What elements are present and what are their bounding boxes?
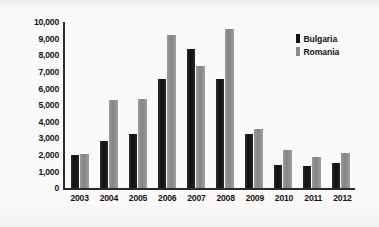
bar-bulgaria-2005 [129, 134, 138, 189]
bar-group [65, 22, 94, 188]
bar-bulgaria-2003 [71, 155, 80, 188]
bar-bulgaria-2012 [332, 163, 341, 188]
bar-bulgaria-2010 [274, 165, 283, 189]
legend-label-bulgaria: Bulgaria [304, 34, 338, 44]
y-axis-tick-label: 7,000 [38, 67, 59, 77]
y-axis-tick-label: 6,000 [38, 84, 59, 94]
chart-figure: Foreign Direct Investment (millions of e… [0, 0, 379, 227]
x-axis-tick-label: 2010 [269, 193, 298, 203]
x-axis-tick-label: 2012 [328, 193, 357, 203]
bar-romania-2008 [225, 29, 234, 189]
legend-item-bulgaria: Bulgaria [296, 32, 339, 45]
y-axis-tick-label: 5,000 [38, 100, 59, 110]
x-axis-tick-label: 2005 [123, 193, 152, 203]
y-axis-tick-label: 8,000 [38, 50, 59, 60]
bar-romania-2005 [138, 99, 147, 188]
bar-romania-2009 [254, 129, 263, 188]
y-axis-tick-label: 10,000 [34, 17, 59, 27]
x-axis-tick-label: 2008 [211, 193, 240, 203]
bar-group [152, 22, 181, 188]
y-axis-tick-label: 0 [54, 183, 59, 193]
bar-group [239, 22, 268, 188]
y-axis-tick-label: 4,000 [38, 117, 59, 127]
x-axis-tick-label: 2003 [65, 193, 94, 203]
bar-romania-2006 [167, 35, 176, 188]
x-axis-tick-label: 2009 [240, 193, 269, 203]
legend-swatch-icon-romania [296, 47, 300, 56]
bar-romania-2011 [312, 157, 321, 188]
x-axis-ticks: 2003200420052006200720082009201020112012 [65, 193, 357, 203]
bar-bulgaria-2006 [158, 79, 167, 188]
bar-bulgaria-2004 [100, 141, 109, 188]
bar-romania-2010 [283, 150, 292, 188]
x-axis-tick-label: 2011 [299, 193, 328, 203]
x-axis-line [63, 188, 355, 190]
bar-romania-2007 [196, 66, 205, 188]
bar-group [210, 22, 239, 188]
bar-bulgaria-2008 [216, 79, 225, 188]
bar-romania-2004 [109, 100, 118, 188]
x-axis-tick-label: 2006 [153, 193, 182, 203]
legend-label-romania: Romania [304, 47, 340, 57]
y-axis-tick-label: 2,000 [38, 150, 59, 160]
x-axis-tick-label: 2007 [182, 193, 211, 203]
bar-group [94, 22, 123, 188]
bar-bulgaria-2011 [303, 166, 312, 188]
bar-group [268, 22, 297, 188]
y-axis-tick-label: 3,000 [38, 133, 59, 143]
bar-bulgaria-2009 [245, 134, 254, 188]
bar-bulgaria-2007 [187, 49, 196, 189]
bar-romania-2012 [341, 153, 350, 189]
y-axis-tick-label: 1,000 [38, 167, 59, 177]
legend-item-romania: Romania [296, 45, 339, 58]
bar-group [123, 22, 152, 188]
chart-legend: Bulgaria Romania [296, 32, 339, 58]
legend-swatch-icon-bulgaria [296, 34, 300, 43]
bar-group [181, 22, 210, 188]
bar-romania-2003 [80, 154, 89, 188]
y-axis-tick-label: 9,000 [38, 34, 59, 44]
x-axis-tick-label: 2004 [94, 193, 123, 203]
